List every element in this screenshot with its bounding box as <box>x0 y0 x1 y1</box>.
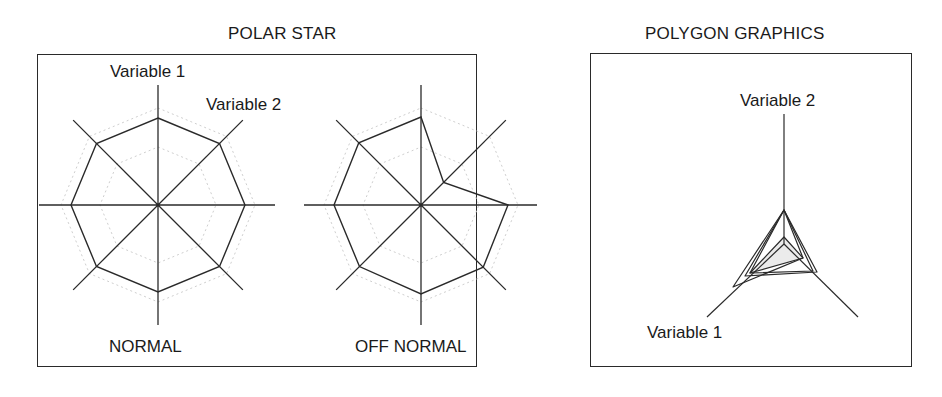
polar-star-normal <box>39 85 275 325</box>
star-center-dot <box>419 203 423 207</box>
star-axis <box>421 205 506 290</box>
star-axis <box>336 205 421 290</box>
star-axis <box>73 205 158 290</box>
star-axis <box>158 205 243 290</box>
star-normal-variable-1-label: Variable 1 <box>110 62 185 81</box>
star-normal-variable-2-label: Variable 2 <box>206 95 281 114</box>
star-axis <box>73 120 158 205</box>
star-axis <box>421 120 506 205</box>
star-axis <box>336 120 421 205</box>
polygon-graphics-plot <box>707 114 858 317</box>
polygon-variable-1-label: Variable 1 <box>647 323 722 342</box>
star-center-dot <box>156 203 160 207</box>
polygon-variable-2-label: Variable 2 <box>740 91 815 110</box>
star-normal-caption: NORMAL <box>109 337 182 356</box>
star-off-normal-caption: OFF NORMAL <box>355 337 466 356</box>
polygon-axis <box>707 244 784 317</box>
diagram-canvas: Variable 1 Variable 2 NORMAL OFF NORMAL … <box>0 0 942 397</box>
polygon-axis <box>784 244 858 317</box>
polar-star-off-normal <box>304 85 537 325</box>
star-axis <box>158 120 243 205</box>
